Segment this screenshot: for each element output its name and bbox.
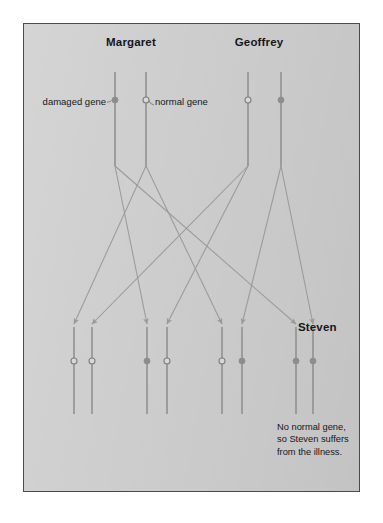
- damaged-gene-marker: [278, 97, 284, 103]
- normal-gene-marker: [245, 97, 251, 103]
- inheritance-arrows: [74, 166, 313, 324]
- normal-gene-marker: [143, 97, 149, 103]
- inheritance-arrow: [74, 166, 146, 324]
- child-name-steven: Steven: [298, 321, 337, 333]
- damaged-gene-marker: [293, 358, 299, 364]
- damaged-gene-marker: [144, 358, 150, 364]
- parent-name-margaret: Margaret: [106, 36, 156, 48]
- leader-line-normal: [149, 101, 154, 106]
- normal-gene-marker: [89, 358, 95, 364]
- parent-chromosomes: [115, 72, 281, 166]
- inheritance-arrow: [146, 166, 222, 324]
- gene-markers: [71, 97, 316, 364]
- normal-gene-marker: [164, 358, 170, 364]
- annotation-damaged-gene-label: damaged gene: [43, 96, 106, 107]
- child-chromosomes: [74, 327, 313, 414]
- inheritance-arrow: [167, 166, 248, 324]
- inheritance-arrow: [92, 166, 248, 324]
- damaged-gene-marker: [310, 358, 316, 364]
- leader-line-damaged: [107, 100, 112, 102]
- parent-name-geoffrey: Geoffrey: [235, 36, 284, 48]
- damaged-gene-marker: [112, 97, 118, 103]
- annotation-normal-gene-label: normal gene: [155, 96, 208, 107]
- steven-illness-caption: No normal gene, so Steven suffers from t…: [277, 421, 349, 458]
- inheritance-arrow: [242, 166, 281, 324]
- normal-gene-marker: [71, 358, 77, 364]
- normal-gene-marker: [219, 358, 225, 364]
- inheritance-arrow: [281, 166, 313, 324]
- damaged-gene-marker: [239, 358, 245, 364]
